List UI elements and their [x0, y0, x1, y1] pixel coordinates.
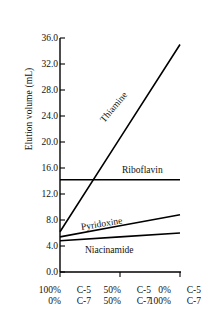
series-line-thiamine: [60, 45, 180, 232]
plot-area: [0, 0, 202, 320]
x-axis-group-1: 100% C-5 0% C-7: [31, 285, 91, 307]
x-label-top-column: C-5: [171, 285, 201, 296]
x-axis-group-3: 0% C-5 100% C-7: [141, 285, 201, 307]
x-label-top-percent: 0%: [141, 285, 171, 296]
x-label-bottom-column: C-7: [61, 296, 91, 307]
x-axis-ticks: [60, 272, 180, 277]
x-label-top-column: C-5: [61, 285, 91, 296]
chart-container: Elution volume (mL) 36.0 32.0 28.0 24.0 …: [0, 0, 202, 320]
series-label-niacinamide: Niacinamide: [85, 245, 134, 255]
x-label-top-percent: 50%: [91, 285, 121, 296]
x-label-bottom-percent: 100%: [141, 296, 171, 307]
x-label-bottom-percent: 0%: [31, 296, 61, 307]
x-label-top-percent: 100%: [31, 285, 61, 296]
x-label-bottom-column: C-7: [171, 296, 201, 307]
x-label-bottom-percent: 50%: [91, 296, 121, 307]
series-label-riboflavin: Riboflavin: [122, 165, 163, 175]
